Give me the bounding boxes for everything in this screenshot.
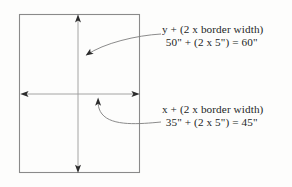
y-callout-line-2: 50" + (2 x 5") = 60" [162, 36, 263, 49]
y-callout-line-1: y + (2 x border width) [162, 23, 263, 36]
x-callout-line-2: 35" + (2 x 5") = 45" [162, 116, 263, 129]
x-callout-line-1: x + (2 x border width) [162, 103, 263, 116]
y-dimension-callout: y + (2 x border width) 50" + (2 x 5") = … [162, 23, 263, 50]
x-dimension-callout: x + (2 x border width) 35" + (2 x 5") = … [162, 103, 263, 130]
panel-rectangle [20, 15, 140, 173]
leader-curve-y [87, 34, 162, 55]
leader-curve-x [98, 104, 161, 124]
border-width-diagram: y + (2 x border width) 50" + (2 x 5") = … [0, 0, 292, 187]
